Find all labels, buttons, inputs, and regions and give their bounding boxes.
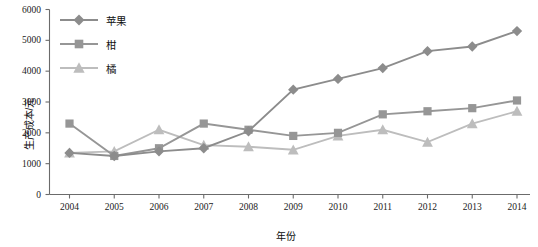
legend-item-柑[interactable]: 柑: [58, 32, 126, 56]
series-marker: [512, 106, 523, 116]
x-axis-tick-label: 2009: [284, 202, 303, 212]
series-marker: [289, 132, 297, 140]
legend-item-橘[interactable]: 橘: [58, 56, 126, 80]
legend: 苹果柑橘: [58, 8, 126, 80]
legend-swatch-diamond: [58, 13, 100, 27]
y-axis-tick-label: 5000: [8, 35, 41, 45]
series-0: [64, 26, 522, 161]
series-marker: [468, 104, 476, 112]
x-axis-tick-label: 2012: [418, 202, 437, 212]
legend-label: 橘: [106, 61, 116, 76]
x-axis-tick-label: 2005: [105, 202, 124, 212]
series-marker: [154, 124, 165, 134]
x-axis-tick-label: 2014: [508, 202, 527, 212]
series-marker: [423, 107, 431, 115]
series-marker: [422, 46, 432, 56]
series-marker: [379, 110, 387, 118]
series-2: [64, 106, 522, 158]
series-marker: [513, 96, 521, 104]
series-marker: [467, 41, 477, 51]
series-marker: [378, 63, 388, 73]
line-chart: 0100020003000400050006000 20042005200620…: [0, 0, 538, 247]
legend-item-苹果[interactable]: 苹果: [58, 8, 126, 32]
x-axis-tick-label: 2007: [194, 202, 213, 212]
x-axis-title: 年份: [276, 228, 296, 243]
y-axis-tick-label: 0: [8, 190, 41, 200]
x-axis-tick-label: 2008: [239, 202, 258, 212]
series-marker: [512, 26, 522, 36]
y-axis-tick-label: 4000: [8, 66, 41, 76]
legend-label: 柑: [106, 37, 116, 52]
series-marker: [333, 74, 343, 84]
x-axis-tick-label: 2004: [60, 202, 79, 212]
series-marker: [74, 15, 85, 26]
legend-swatch-square: [58, 37, 100, 51]
x-axis-tick-label: 2011: [373, 202, 392, 212]
x-axis-tick-label: 2013: [463, 202, 482, 212]
y-axis-title: 生产成本/元: [21, 97, 36, 150]
legend-swatch-triangle: [58, 61, 100, 75]
legend-label: 苹果: [106, 13, 126, 28]
x-axis-tick-label: 2010: [329, 202, 348, 212]
series-marker: [334, 129, 342, 137]
series-marker: [75, 40, 84, 49]
y-axis-tick-label: 1000: [8, 159, 41, 169]
series-marker: [65, 119, 73, 127]
series-marker: [200, 119, 208, 127]
y-axis-tick-label: 6000: [8, 5, 41, 15]
x-axis-tick-label: 2006: [150, 202, 169, 212]
